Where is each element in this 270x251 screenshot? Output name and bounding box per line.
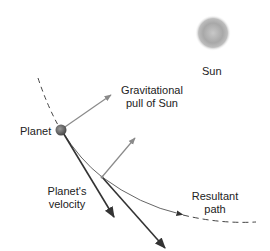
planet-label: Planet: [20, 125, 51, 138]
gravity-label-line2: pull of Sun: [117, 97, 187, 110]
resultant-path-label-line2: path: [190, 203, 240, 216]
previous-orbit-dashed: [38, 78, 58, 125]
orbit-diagram: Sun Gravitational pull of Sun Planet Pla…: [0, 0, 270, 251]
path-point-marker: [101, 176, 104, 179]
velocity-label: Planet's velocity: [44, 185, 90, 211]
gravity-arrow-1: [62, 95, 111, 129]
resultant-path-dashed: [183, 215, 256, 222]
gravity-arrow-2: [102, 138, 135, 177]
gravity-label-line1: Gravitational: [117, 84, 187, 97]
sun-label: Sun: [202, 65, 222, 78]
resultant-path-label-line1: Resultant: [190, 190, 240, 203]
velocity-label-line1: Planet's: [44, 185, 90, 198]
resultant-path-label: Resultant path: [190, 190, 240, 216]
velocity-label-line2: velocity: [44, 198, 90, 211]
planet-icon: [56, 125, 67, 136]
gravity-label: Gravitational pull of Sun: [117, 84, 187, 110]
sun-icon: [195, 15, 231, 51]
